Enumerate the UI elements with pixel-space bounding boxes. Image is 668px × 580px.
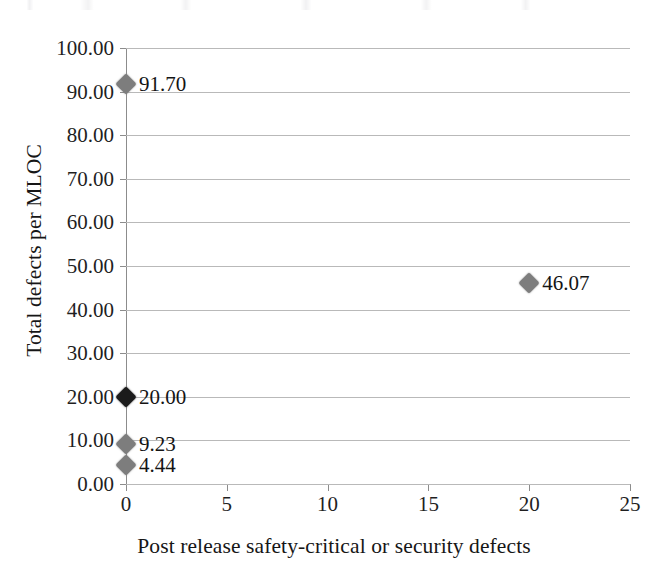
y-tick-label: 40.00 <box>0 300 114 321</box>
x-tick-mark <box>529 485 530 491</box>
y-tick-label: 60.00 <box>0 212 114 233</box>
gridline <box>126 310 630 311</box>
gridline <box>126 397 630 398</box>
gridline <box>126 135 630 136</box>
y-tick-mark <box>120 353 126 354</box>
chart-figure: 0.0010.0020.0030.0040.0050.0060.0070.008… <box>0 0 668 580</box>
data-point-label: 9.23 <box>139 433 176 454</box>
x-tick-mark <box>428 485 429 491</box>
y-tick-label: 30.00 <box>0 343 114 364</box>
x-tick-mark <box>328 485 329 491</box>
y-axis-title: Total defects per MLOC <box>22 101 47 401</box>
x-tick-label: 5 <box>197 494 257 515</box>
x-tick-label: 10 <box>298 494 358 515</box>
y-tick-label: 20.00 <box>0 387 114 408</box>
y-tick-label: 50.00 <box>0 256 114 277</box>
x-tick-mark <box>630 485 631 491</box>
data-point-label: 20.00 <box>139 386 186 407</box>
y-tick-label: 0.00 <box>0 474 114 495</box>
x-tick-label: 25 <box>600 494 660 515</box>
y-tick-mark <box>120 266 126 267</box>
y-tick-mark <box>120 222 126 223</box>
x-tick-label: 0 <box>96 494 156 515</box>
scan-artifact <box>0 0 668 10</box>
x-tick-mark <box>227 485 228 491</box>
x-tick-label: 15 <box>398 494 458 515</box>
gridline <box>126 353 630 354</box>
y-tick-label: 10.00 <box>0 430 114 451</box>
y-tick-mark <box>120 48 126 49</box>
gridline <box>126 484 630 485</box>
data-point-label: 91.70 <box>139 74 186 95</box>
gridline <box>126 440 630 441</box>
data-point-label: 4.44 <box>139 454 176 475</box>
y-tick-mark <box>120 310 126 311</box>
y-tick-label: 100.00 <box>0 38 114 59</box>
x-tick-label: 20 <box>499 494 559 515</box>
y-tick-label: 70.00 <box>0 169 114 190</box>
gridline <box>126 222 630 223</box>
gridline <box>126 266 630 267</box>
data-point-label: 46.07 <box>542 273 589 294</box>
x-tick-mark <box>126 485 127 491</box>
gridline <box>126 48 630 49</box>
gridline <box>126 179 630 180</box>
y-tick-label: 90.00 <box>0 82 114 103</box>
gridline <box>126 92 630 93</box>
y-tick-mark <box>120 179 126 180</box>
y-tick-label: 80.00 <box>0 125 114 146</box>
x-axis-title: Post release safety-critical or security… <box>0 534 668 559</box>
y-tick-mark <box>120 135 126 136</box>
